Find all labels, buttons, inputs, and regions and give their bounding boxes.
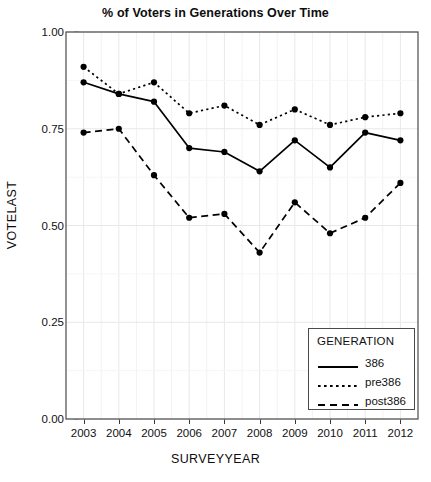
data-point-pre386-2009 [292,106,298,112]
legend-title: GENERATION [317,335,394,347]
legend-label: 386 [365,357,384,369]
data-point-post386-2012 [397,180,403,186]
chart-figure: % of Voters in Generations Over Time VOT… [0,0,431,482]
data-point-post386-2007 [221,211,227,217]
data-point-386-2005 [151,99,157,105]
data-point-386-2010 [327,164,333,170]
data-point-pre386-2007 [221,102,227,108]
data-point-pre386-2012 [397,110,403,116]
legend-swatch-post386 [317,396,359,406]
data-point-pre386-2006 [186,110,192,116]
data-point-post386-2008 [257,249,263,255]
legend-entry-post386: post386 [317,393,406,409]
data-point-post386-2003 [81,130,87,136]
legend-entry-386: 386 [317,355,384,371]
data-point-post386-2005 [151,172,157,178]
legend-label: pre386 [365,376,401,388]
data-point-386-2009 [292,137,298,143]
data-point-post386-2011 [362,215,368,221]
data-point-pre386-2008 [257,122,263,128]
legend-swatch-386 [317,358,359,368]
data-point-pre386-2003 [81,64,87,70]
data-point-386-2007 [221,149,227,155]
data-point-post386-2004 [116,126,122,132]
data-point-386-2012 [397,137,403,143]
data-point-386-2008 [257,168,263,174]
data-point-post386-2010 [327,230,333,236]
data-point-386-2006 [186,145,192,151]
data-point-386-2011 [362,130,368,136]
data-point-pre386-2010 [327,122,333,128]
data-point-post386-2006 [186,215,192,221]
chart-legend: GENERATION 386pre386post386 [308,328,415,410]
data-point-pre386-2004 [116,91,122,97]
data-point-pre386-2011 [362,114,368,120]
data-point-post386-2009 [292,199,298,205]
data-point-pre386-2005 [151,79,157,85]
legend-label: post386 [365,395,406,407]
legend-entry-pre386: pre386 [317,374,401,390]
legend-swatch-pre386 [317,377,359,387]
data-point-386-2003 [81,79,87,85]
